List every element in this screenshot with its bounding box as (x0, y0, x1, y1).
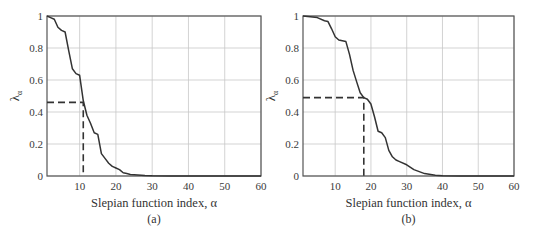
x-tick-label: 10 (330, 180, 342, 192)
chart-panel-a: 10203040506000.20.40.60.81Slepian functi… (7, 10, 267, 226)
eigenvalue-curve (47, 16, 261, 176)
x-axis-label: Slepian function index, α (346, 196, 472, 210)
y-tick-label: 0.6 (29, 74, 43, 86)
y-tick-label: 0.4 (285, 106, 299, 118)
x-tick-label: 60 (256, 180, 268, 192)
dashed-guide (303, 98, 364, 176)
x-tick-label: 20 (365, 180, 377, 192)
axes-frame (303, 16, 514, 176)
x-tick-label: 30 (147, 180, 159, 192)
x-tick-label: 50 (219, 180, 231, 192)
grid (303, 16, 514, 176)
x-tick-label: 20 (110, 180, 122, 192)
panel-caption: (b) (402, 212, 416, 226)
y-tick-label: 0.8 (29, 42, 43, 54)
y-tick-label: 1 (38, 10, 44, 22)
x-tick-label: 30 (401, 180, 413, 192)
x-tick-label: 60 (509, 180, 521, 192)
y-tick-label: 0.8 (285, 42, 299, 54)
y-tick-label: 0.2 (285, 138, 299, 150)
y-tick-label: 0.6 (285, 74, 299, 86)
chart-panel-b: 10203040506000.20.40.60.81Slepian functi… (263, 10, 520, 226)
x-tick-label: 50 (473, 180, 485, 192)
y-tick-label: 1 (294, 10, 300, 22)
y-tick-label: 0.2 (29, 138, 43, 150)
grid (47, 16, 261, 176)
y-tick-label: 0.4 (29, 106, 43, 118)
x-axis-label: Slepian function index, α (91, 196, 217, 210)
axes-frame (47, 16, 261, 176)
y-axis-label: λα (263, 90, 280, 101)
eigenvalue-curve (303, 16, 514, 176)
figure: 10203040506000.20.40.60.81Slepian functi… (0, 0, 536, 233)
y-tick-label: 0 (38, 170, 44, 182)
x-tick-label: 40 (437, 180, 449, 192)
y-axis-label: λα (7, 90, 24, 101)
dashed-guide (47, 102, 83, 176)
y-tick-label: 0 (294, 170, 300, 182)
panel-caption: (a) (147, 212, 160, 226)
x-tick-label: 10 (74, 180, 86, 192)
x-tick-label: 40 (183, 180, 195, 192)
